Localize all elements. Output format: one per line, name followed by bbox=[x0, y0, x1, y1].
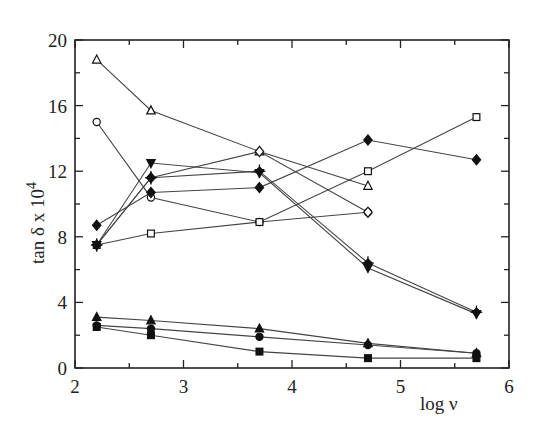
circle-open-marker bbox=[93, 118, 100, 125]
triangle-open-marker bbox=[93, 55, 101, 63]
y-axis-title-sup: 4 bbox=[24, 182, 39, 189]
diamond-filled-marker bbox=[472, 155, 480, 165]
y-tick-label: 8 bbox=[58, 227, 68, 248]
y-tick-label: 0 bbox=[58, 358, 68, 379]
x-tick-label: 3 bbox=[179, 376, 189, 397]
series-open-triangle bbox=[97, 60, 368, 186]
data-series bbox=[91, 55, 483, 362]
series-line bbox=[97, 122, 368, 222]
markers-plus bbox=[91, 164, 483, 318]
diamond-open-marker bbox=[364, 207, 372, 217]
y-tick-label: 16 bbox=[48, 96, 67, 117]
triangle-filled-marker bbox=[93, 313, 101, 321]
y-tick-label: 12 bbox=[48, 161, 67, 182]
diamond-filled-marker bbox=[255, 183, 263, 193]
x-axis-title: log ν bbox=[420, 393, 458, 414]
x-tick-label: 6 bbox=[504, 376, 514, 397]
square-open-marker bbox=[365, 168, 372, 175]
y-tick-label: 20 bbox=[48, 30, 67, 51]
markers-open-triangle bbox=[93, 55, 373, 189]
square-filled-marker bbox=[93, 324, 100, 331]
series-line bbox=[97, 140, 477, 225]
series-line bbox=[97, 117, 477, 245]
axis-ticks bbox=[75, 40, 509, 368]
y-tick-label: 4 bbox=[58, 292, 68, 313]
diamond-filled-marker bbox=[364, 135, 372, 145]
square-filled-marker bbox=[365, 355, 372, 362]
series-open-square bbox=[97, 117, 477, 245]
circle-filled-marker bbox=[256, 333, 263, 340]
diamond-filled-marker bbox=[93, 220, 101, 230]
circle-filled-marker bbox=[364, 341, 371, 348]
square-filled-marker bbox=[256, 348, 263, 355]
series-line bbox=[97, 60, 368, 186]
circle-filled-marker bbox=[147, 325, 154, 332]
square-filled-marker bbox=[473, 355, 480, 362]
svg-text:tan δ x 104: tan δ x 104 bbox=[24, 182, 48, 264]
series-open-diamond bbox=[97, 152, 368, 245]
series-line bbox=[97, 163, 477, 314]
chart: 23456048121620 log ν tan δ x 104 bbox=[0, 0, 545, 423]
square-open-marker bbox=[148, 230, 155, 237]
x-tick-label: 2 bbox=[70, 376, 80, 397]
y-axis-title: tan δ x 104 bbox=[24, 182, 48, 264]
markers-open-circle bbox=[93, 118, 371, 225]
square-filled-marker bbox=[148, 332, 155, 339]
x-tick-label: 5 bbox=[396, 376, 406, 397]
series-open-circle bbox=[97, 122, 368, 222]
x-tick-label: 4 bbox=[287, 376, 297, 397]
square-open-marker bbox=[256, 219, 263, 226]
series-down-triangle bbox=[97, 163, 477, 314]
plot-frame bbox=[75, 40, 509, 368]
series-filled-diamond bbox=[97, 140, 477, 225]
y-axis-title-main: tan δ x 10 bbox=[27, 189, 48, 264]
series-line bbox=[97, 152, 368, 245]
square-open-marker bbox=[473, 114, 480, 121]
